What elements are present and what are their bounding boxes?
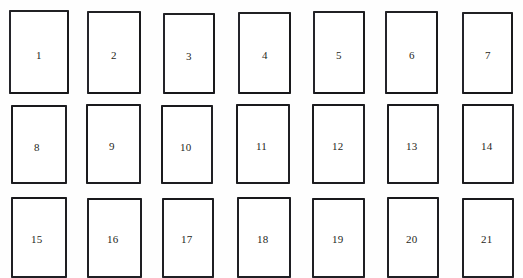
grid-cell-label: 5 (336, 50, 342, 61)
grid-cell[interactable]: 3 (163, 13, 215, 94)
grid-cell[interactable]: 1 (9, 10, 69, 94)
grid-cell-label: 16 (107, 234, 118, 245)
grid-cell[interactable]: 5 (313, 11, 365, 94)
grid-cell-label: 19 (332, 234, 343, 245)
grid-cell[interactable]: 4 (238, 12, 291, 94)
grid-cell[interactable]: 21 (462, 198, 514, 278)
grid-cell-label: 13 (406, 141, 417, 152)
grid-cell-label: 3 (186, 51, 192, 62)
grid-cell-label: 11 (256, 141, 267, 152)
grid-cell[interactable]: 16 (87, 198, 142, 278)
grid-cell-label: 4 (262, 50, 268, 61)
grid-cell[interactable]: 17 (162, 198, 214, 278)
grid-cell-label: 1 (36, 50, 42, 61)
grid-cell[interactable]: 10 (161, 105, 213, 184)
cropped-caption-remnant (0, 0, 523, 7)
grid-cell[interactable]: 2 (87, 11, 141, 94)
grid-cell[interactable]: 8 (11, 105, 67, 184)
grid-cell-label: 10 (180, 142, 191, 153)
grid-cell-label: 6 (409, 50, 415, 61)
grid-cell-label: 17 (181, 234, 192, 245)
grid-cell-label: 15 (31, 234, 42, 245)
grid-cell[interactable]: 11 (236, 104, 290, 184)
grid-cell-label: 7 (485, 50, 491, 61)
grid-cell[interactable]: 7 (462, 12, 513, 94)
grid-cell-label: 8 (34, 142, 40, 153)
figure-canvas: 123456789101112131415161718192021 (0, 0, 523, 278)
grid-cell-label: 14 (481, 141, 492, 152)
grid-cell[interactable]: 15 (11, 197, 67, 278)
grid-cell[interactable]: 9 (86, 104, 141, 184)
grid-cell[interactable]: 13 (387, 104, 439, 184)
grid-cell[interactable]: 20 (387, 197, 439, 278)
grid-cell[interactable]: 6 (385, 11, 438, 94)
grid-cell-label: 21 (481, 234, 492, 245)
grid-cell-label: 18 (257, 234, 268, 245)
grid-cell-label: 12 (332, 141, 343, 152)
grid-cell[interactable]: 18 (237, 197, 291, 278)
grid-cell[interactable]: 12 (312, 104, 365, 184)
grid-cell-label: 20 (406, 234, 417, 245)
grid-cell[interactable]: 19 (312, 198, 365, 278)
grid-cell-label: 9 (109, 141, 115, 152)
grid-cell[interactable]: 14 (462, 104, 514, 184)
grid-cell-label: 2 (111, 50, 117, 61)
